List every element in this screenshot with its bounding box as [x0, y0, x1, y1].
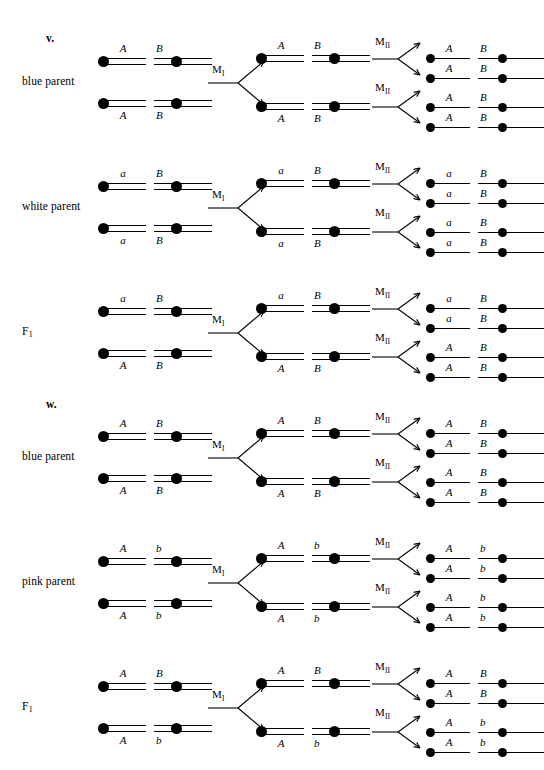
meiosis-fork-arrow-mii-bottom — [372, 211, 428, 253]
allele-label-gene2: b — [478, 562, 544, 574]
allele-label-gene2: b — [312, 539, 372, 551]
centromere-dot — [329, 226, 340, 237]
allele-label-gene1: a — [258, 289, 304, 301]
centromere-dot — [329, 101, 340, 112]
allele-label-gene1: A — [100, 109, 146, 121]
chromatid-strand — [478, 578, 544, 579]
chromatid-strand — [312, 353, 370, 354]
allele-label-gene1: A — [428, 486, 470, 498]
centromere-dot — [426, 373, 435, 382]
allele-label-gene2: B — [312, 39, 372, 51]
chromatid-strand — [154, 58, 212, 59]
chromatid-strand — [154, 183, 212, 184]
chromatid-arm-gene2 — [154, 725, 212, 732]
centromere-dot — [498, 623, 507, 632]
chromatid-arm-gene2 — [478, 328, 544, 329]
chromatid-arm-gene2 — [478, 607, 544, 608]
chromatid-arm-gene2 — [478, 558, 544, 559]
allele-label-gene2: B — [312, 487, 372, 499]
chromatid-arm-gene2 — [478, 482, 544, 483]
allele-label-gene2: B — [478, 216, 544, 228]
allele-label-gene2: B — [154, 167, 214, 179]
allele-label-gene1: A — [258, 664, 304, 676]
chromatid-arm-gene2 — [312, 555, 370, 562]
chromatid-arm-gene2 — [312, 228, 370, 235]
allele-label-gene2: b — [478, 611, 544, 623]
allele-label-gene2: B — [154, 42, 214, 54]
chromatid-arm-gene2 — [154, 683, 212, 690]
allele-label-gene2: B — [478, 91, 544, 103]
allele-label-gene2: B — [478, 167, 544, 179]
allele-label-gene2: B — [154, 234, 214, 246]
meiosis-fork-arrow-mii-top — [372, 538, 428, 580]
chromatid-arm-gene2 — [478, 107, 544, 108]
chromatid-strand — [312, 109, 370, 110]
chromatid-arm-gene2 — [312, 353, 370, 360]
row-label: F1 — [22, 700, 33, 712]
centromere-dot — [256, 553, 267, 564]
allele-label-gene1: A — [258, 539, 304, 551]
chromatid-strand — [478, 433, 544, 434]
row-label-text: white parent — [22, 200, 80, 212]
allele-label-gene1: A — [100, 609, 146, 621]
chromatid-strand — [154, 475, 212, 476]
part-marker: w. — [46, 398, 57, 410]
row-label-text: pink parent — [22, 575, 75, 587]
chromatid-strand — [312, 680, 370, 681]
centromere-dot — [426, 623, 435, 632]
meiosis-fork-arrow-mii-top — [372, 663, 428, 705]
chromatid-arm-gene2 — [154, 475, 212, 482]
centromere-dot — [171, 431, 182, 442]
chromatid-arm-gene2 — [312, 305, 370, 312]
centromere-dot — [498, 123, 507, 132]
chromatid-arm-gene2 — [478, 502, 544, 503]
centromere-dot — [426, 498, 435, 507]
meiosis-fork-arrow-mii-bottom — [372, 586, 428, 628]
chromatid-strand — [154, 558, 212, 559]
centromere-dot — [256, 726, 267, 737]
centromere-dot — [98, 348, 109, 359]
row-label: blue parent — [22, 450, 75, 462]
allele-label-gene2: B — [312, 237, 372, 249]
centromere-dot — [171, 556, 182, 567]
chromatid-strand — [154, 100, 212, 101]
allele-label-gene1: A — [100, 667, 146, 679]
centromere-dot — [171, 348, 182, 359]
row-label-subscript: 1 — [29, 330, 33, 339]
allele-label-gene1: A — [258, 487, 304, 499]
allele-label-gene1: A — [428, 611, 470, 623]
chromatid-strand — [312, 609, 370, 610]
meiosis-row: white parentaBaBMIaBaBMIIMIIaBaBaBaB — [0, 147, 544, 267]
chromatid-strand — [312, 234, 370, 235]
chromatid-arm-gene2 — [312, 55, 370, 62]
allele-label-gene1: A — [428, 736, 470, 748]
allele-label-gene1: a — [100, 167, 146, 179]
allele-label-gene1: A — [428, 417, 470, 429]
chromatid-strand — [154, 231, 212, 232]
chromatid-strand — [154, 106, 212, 107]
meiosis-fork-arrow-mii-top — [372, 38, 428, 80]
chromatid-strand — [478, 183, 544, 184]
row-label: F1 — [22, 325, 33, 337]
allele-label-gene1: A — [428, 341, 470, 353]
chromatid-strand — [154, 731, 212, 732]
chromatid-arm-gene2 — [478, 357, 544, 358]
chromatid-arm-gene2 — [154, 225, 212, 232]
allele-label-gene1: a — [100, 234, 146, 246]
centromere-dot — [171, 473, 182, 484]
chromatid-strand — [312, 734, 370, 735]
allele-label-gene1: a — [100, 292, 146, 304]
chromatid-arm-gene2 — [154, 100, 212, 107]
chromatid-strand — [312, 103, 370, 104]
allele-label-gene1: A — [100, 417, 146, 429]
chromatid-arm-gene2 — [478, 752, 544, 753]
allele-label-gene1: a — [428, 167, 470, 179]
allele-label-gene1: A — [428, 667, 470, 679]
centromere-dot — [426, 248, 435, 257]
chromatid-arm-gene2 — [478, 127, 544, 128]
chromatid-strand — [154, 314, 212, 315]
chromatid-arm-gene2 — [154, 558, 212, 565]
allele-label-gene2: b — [312, 612, 372, 624]
chromatid-strand — [154, 356, 212, 357]
centromere-dot — [329, 53, 340, 64]
